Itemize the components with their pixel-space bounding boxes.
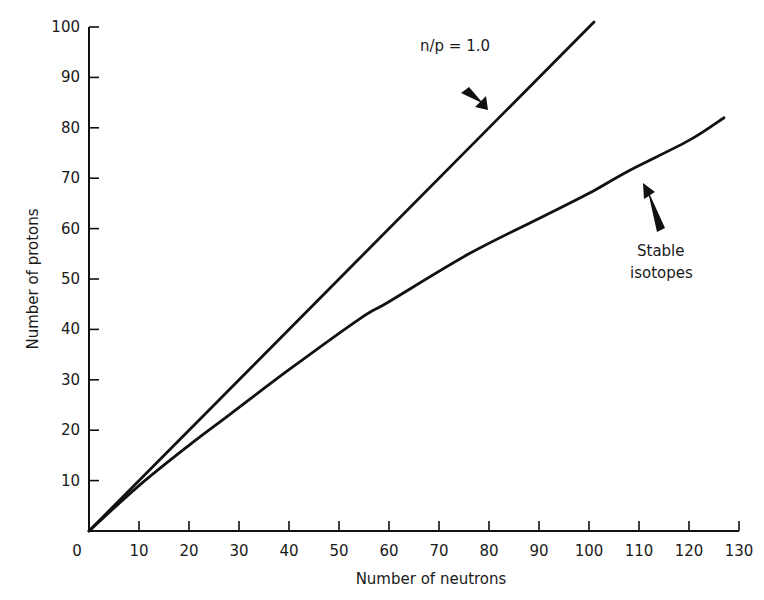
annotation-ratio-label: n/p = 1.0 — [420, 37, 490, 55]
chart-canvas: 0102030405060708090100110120130102030405… — [0, 0, 764, 600]
x-tick-label: 70 — [429, 542, 448, 560]
x-tick-label: 110 — [625, 542, 654, 560]
x-tick-label: 90 — [529, 542, 548, 560]
y-tick-label: 70 — [61, 169, 80, 187]
y-tick-label: 30 — [61, 371, 80, 389]
x-tick-label: 60 — [379, 542, 398, 560]
annotation-stable-label-line1: Stable — [637, 242, 685, 260]
annotation-stable-label-line2: isotopes — [630, 264, 693, 282]
y-tick-label: 80 — [61, 119, 80, 137]
arrow-ratio-icon — [461, 87, 488, 110]
y-tick-label: 10 — [61, 472, 80, 490]
y-tick-label: 60 — [61, 220, 80, 238]
y-tick-label: 50 — [61, 270, 80, 288]
y-tick-label: 100 — [51, 18, 80, 36]
x-tick-label: 100 — [575, 542, 604, 560]
x-tick-label: 10 — [129, 542, 148, 560]
y-tick-label: 20 — [61, 421, 80, 439]
ratio-line — [89, 22, 594, 531]
y-tick-label: 90 — [61, 68, 80, 86]
y-axis-label: Number of protons — [24, 208, 42, 349]
stable-isotopes-curve — [89, 118, 724, 531]
x-tick-label: 50 — [329, 542, 348, 560]
x-tick-label: 120 — [675, 542, 704, 560]
series — [89, 22, 724, 531]
x-axis-label: Number of neutrons — [356, 570, 507, 588]
x-tick-label: 80 — [479, 542, 498, 560]
x-tick-label: 40 — [279, 542, 298, 560]
x-tick-label: 0 — [72, 542, 82, 560]
ticks: 0102030405060708090100110120130102030405… — [51, 18, 753, 560]
x-tick-label: 30 — [229, 542, 248, 560]
y-tick-label: 40 — [61, 320, 80, 338]
arrow-stable-icon — [643, 183, 665, 232]
x-tick-label: 20 — [179, 542, 198, 560]
x-tick-label: 130 — [725, 542, 754, 560]
